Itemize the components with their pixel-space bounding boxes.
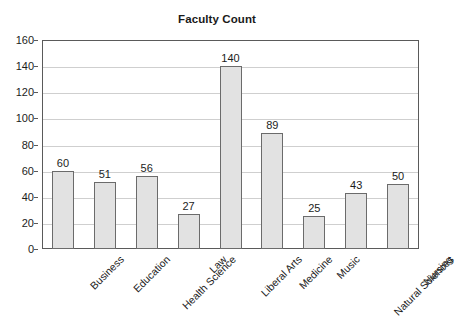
y-tick-mark (34, 40, 38, 41)
x-tick-label: Liberal Arts (258, 253, 304, 299)
plot-area (42, 40, 419, 249)
y-tick-label: 140 (16, 60, 34, 72)
y-axis: 020406080100120140160 (0, 40, 38, 249)
y-tick-mark (34, 66, 38, 67)
y-tick-label: 80 (22, 139, 34, 151)
x-tick-label: Medicine (297, 253, 335, 291)
y-tick-mark (34, 197, 38, 198)
x-tick-label: Music (334, 253, 362, 281)
y-tick-label: 160 (16, 34, 34, 46)
y-tick-mark (34, 92, 38, 93)
gridline (43, 67, 418, 68)
x-tick-label: Business (87, 253, 126, 292)
gridlines (43, 41, 418, 248)
gridline (43, 146, 418, 147)
gridline (43, 198, 418, 199)
y-tick-mark (34, 171, 38, 172)
x-axis-labels: BusinessEducationHealth ScienceLawLibera… (42, 249, 419, 329)
x-tick-label: Education (131, 253, 173, 295)
gridline (43, 119, 418, 120)
y-tick-mark (34, 145, 38, 146)
y-tick-label: 60 (22, 165, 34, 177)
y-tick-label: 20 (22, 217, 34, 229)
x-tick-label: Health Science (179, 253, 237, 311)
gridline (43, 224, 418, 225)
gridline (43, 93, 418, 94)
x-tick-label: Nursing (421, 253, 455, 287)
y-tick-label: 120 (16, 86, 34, 98)
y-tick-label: 100 (16, 112, 34, 124)
gridline (43, 172, 418, 173)
chart-title: Faculty Count (0, 13, 434, 25)
y-tick-mark (34, 223, 38, 224)
y-tick-mark (34, 249, 38, 250)
y-tick-mark (34, 118, 38, 119)
y-tick-label: 40 (22, 191, 34, 203)
